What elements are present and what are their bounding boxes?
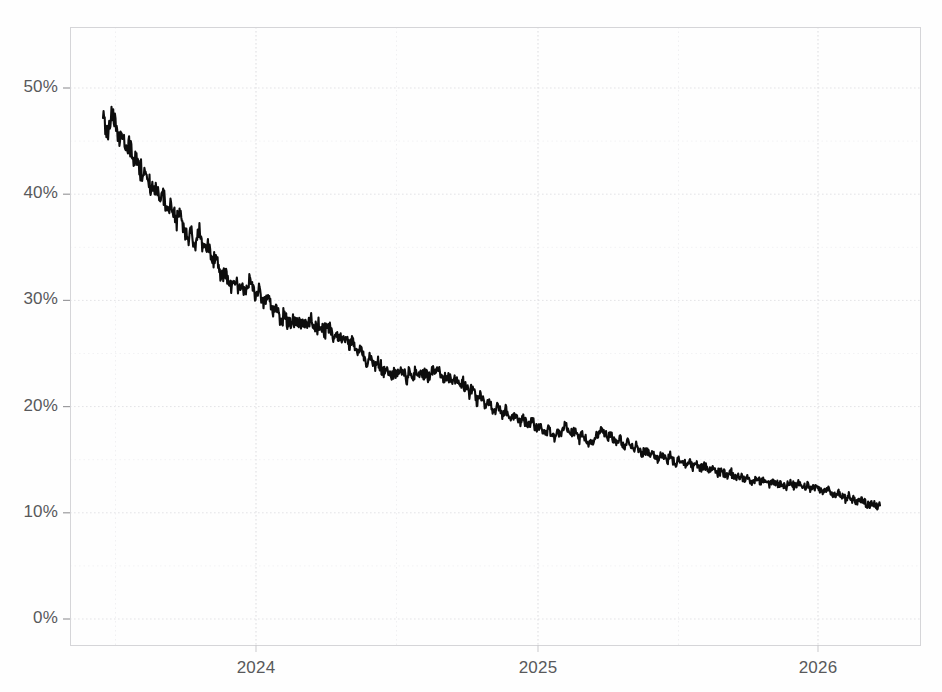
y-axis-tick-label: 20%: [23, 396, 58, 416]
data-series-line: [103, 107, 880, 510]
y-axis-tick-label: 10%: [23, 502, 58, 522]
line-chart-plot: [0, 0, 942, 692]
y-axis-tick-label: 50%: [23, 77, 58, 97]
plot-frame: [71, 28, 921, 646]
gridlines: [70, 27, 920, 645]
y-axis-tick-label: 30%: [23, 289, 58, 309]
x-axis-tick-label: 2025: [498, 658, 578, 678]
x-axis-tick-label: 2024: [216, 658, 296, 678]
chart-canvas: 0%10%20%30%40%50% 202420252026: [0, 0, 942, 692]
y-axis-tick-label: 0%: [33, 608, 58, 628]
y-axis-tick-label: 40%: [23, 183, 58, 203]
x-axis-tick-label: 2026: [778, 658, 858, 678]
